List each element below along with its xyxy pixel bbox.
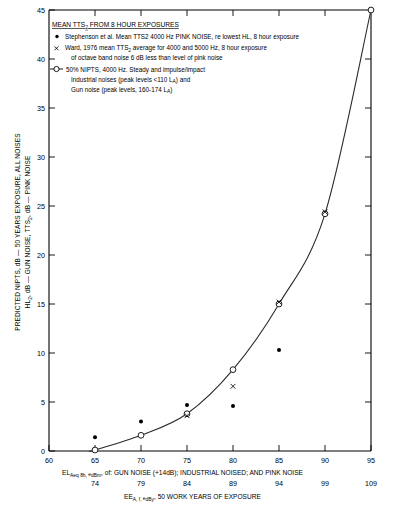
- x-tick-label-secondary: 74: [91, 479, 99, 488]
- x-axis-title-primary: ELAeq 8h, edBm, of: GUN NOISE (+14dB); I…: [62, 469, 304, 478]
- legend-entry-2-text-line2: of octave band noise 6 dB less than leve…: [71, 54, 223, 62]
- y-tick-label: 40: [37, 55, 45, 64]
- y-axis-title-line2: HL2, dB — GUN NOISE, TTS2, dB — PINK NOI…: [24, 155, 33, 308]
- y-axis-tick-labels: 0 5 10 15 20 25 30 35 40 45: [37, 6, 45, 456]
- legend-marker-circle-line: [50, 66, 63, 71]
- legend-title: MEAN TTS2 FROM 8 HOUR EXPOSURES: [52, 21, 179, 30]
- series-stephenson-markers: [93, 348, 281, 439]
- x-tick-label: 75: [183, 456, 191, 465]
- data-point-nipts: [92, 447, 98, 453]
- x-tick-label: 80: [229, 456, 237, 465]
- y-tick-label: 5: [41, 398, 45, 407]
- y-tick-label: 45: [37, 6, 45, 15]
- y-tick-label: 30: [37, 153, 45, 162]
- y-tick-label: 0: [41, 447, 45, 456]
- x-tick-label: 60: [45, 456, 53, 465]
- legend-entry-3-text: 50% NIPTS, 4000 Hz. Steady and impulse/i…: [66, 66, 205, 74]
- data-point-stephenson: [231, 404, 235, 408]
- y-tick-label: 10: [37, 349, 45, 358]
- svg-text:EEA, f, edBy, 50 WORK YEARS OF: EEA, f, edBy, 50 WORK YEARS OF EXPOSURE: [124, 493, 262, 502]
- x-tick-label-secondary: 94: [275, 479, 283, 488]
- data-point-nipts: [138, 432, 144, 438]
- data-point-stephenson: [277, 348, 281, 352]
- y-tick-label: 35: [37, 104, 45, 113]
- x-tick-label: 90: [321, 456, 329, 465]
- series-ward-markers: [185, 209, 328, 418]
- x-tick-label-secondary: 109: [365, 479, 377, 488]
- x-tick-label-secondary: 89: [229, 479, 237, 488]
- data-point-stephenson: [93, 435, 97, 439]
- data-point-stephenson: [185, 403, 189, 407]
- y-axis-title-group: PREDICTED NIPTS, dB — 50 YEARS EXPOSURE,…: [14, 133, 33, 331]
- x-tick-label-secondary: 84: [183, 479, 191, 488]
- legend-entry-3-text-line2: Industrial noises (peak levels <110 LA) …: [71, 76, 191, 85]
- legend-entry-3-text-line3: Gun noise (peak levels, 160-174 LA): [71, 86, 172, 95]
- x-axis-title-secondary: EEA, f, edBy, 50 WORK YEARS OF EXPOSURE: [124, 493, 262, 502]
- legend-entry-1-text: Stephenson et al. Mean TTS2 4000 Hz PINK…: [65, 33, 300, 41]
- legend-entry-2-text: Ward, 1976 mean TTS2 average for 4000 an…: [65, 44, 267, 53]
- chart-canvas: 0 5 10 15 20 25 30 35 40 45: [0, 0, 412, 510]
- data-point-stephenson: [139, 420, 143, 424]
- data-point-ward: [231, 384, 236, 389]
- svg-text:ELAeq 8h, edBm, of: GUN NOISE: ELAeq 8h, edBm, of: GUN NOISE (+14dB); I…: [62, 469, 304, 478]
- data-point-nipts: [230, 367, 236, 373]
- x-tick-label: 85: [275, 456, 283, 465]
- data-point-nipts: [368, 7, 374, 13]
- y-axis-title-line1: PREDICTED NIPTS, dB — 50 YEARS EXPOSURE,…: [14, 133, 21, 331]
- legend-marker-filled-dot: [55, 35, 58, 38]
- x-tick-label-secondary: 79: [137, 479, 145, 488]
- x-tick-label: 70: [137, 456, 145, 465]
- y-tick-label: 15: [37, 300, 45, 309]
- x-axis-tick-labels-secondary: 74 79 84 89 94 99 109: [91, 479, 377, 488]
- x-axis-tick-labels: 60 65 70 75 80 85 90 95: [45, 456, 375, 465]
- x-tick-label: 65: [91, 456, 99, 465]
- x-tick-label-secondary: 99: [321, 479, 329, 488]
- legend-marker-x: [55, 46, 59, 50]
- x-tick-label: 95: [367, 456, 375, 465]
- legend: MEAN TTS2 FROM 8 HOUR EXPOSURES Stephens…: [50, 21, 300, 94]
- y-tick-label: 25: [37, 202, 45, 211]
- figure-container: 0 5 10 15 20 25 30 35 40 45: [0, 0, 412, 510]
- y-tick-label: 20: [37, 251, 45, 260]
